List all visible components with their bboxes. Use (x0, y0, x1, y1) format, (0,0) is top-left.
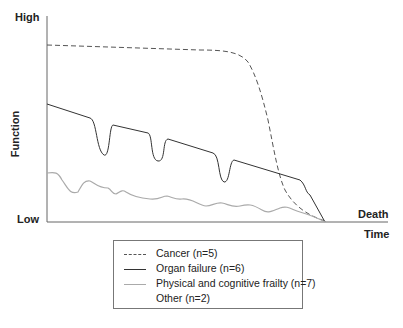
legend-item-cancer: Cancer (n=5) (114, 246, 302, 262)
legend-item-other: Other (n=2) (114, 291, 302, 307)
legend-item-organ-failure: Organ failure (n=6) (114, 261, 302, 277)
legend-label: Physical and cognitive frailty (n=7) (156, 277, 316, 289)
solid-line-swatch (124, 269, 146, 270)
legend-label: Other (n=2) (156, 292, 210, 304)
legend-label: Organ failure (n=6) (156, 262, 244, 274)
dashed-line-swatch (124, 254, 146, 255)
legend-label: Cancer (n=5) (156, 247, 218, 259)
series-organ-failure (47, 104, 325, 222)
light-line-swatch (124, 284, 146, 285)
legend-item-frailty: Physical and cognitive frailty (n=7) (114, 276, 302, 292)
series-cancer (47, 45, 325, 221)
legend: Cancer (n=5) Organ failure (n=6) Physica… (113, 240, 303, 309)
series-frailty (47, 173, 325, 222)
